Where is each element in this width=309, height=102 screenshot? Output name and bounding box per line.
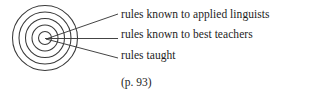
figure-container: rules known to applied linguists rules k… (0, 0, 309, 102)
label-rules-known-to-applied-linguists: rules known to applied linguists (121, 8, 270, 20)
leader-line-rules-taught (46, 39, 118, 58)
ring-3 (26, 19, 65, 58)
label-rules-known-to-best-teachers: rules known to best teachers (121, 28, 253, 40)
leader-lines-group (45, 14, 118, 58)
ring-2 (19, 12, 71, 64)
leader-line-applied-linguists (46, 14, 118, 39)
label-rules-taught: rules taught (121, 49, 176, 61)
ring-4 (32, 25, 58, 51)
concentric-rings-group (13, 6, 78, 71)
ring-outer-1 (13, 6, 78, 71)
page-citation: (p. 93) (121, 76, 152, 88)
